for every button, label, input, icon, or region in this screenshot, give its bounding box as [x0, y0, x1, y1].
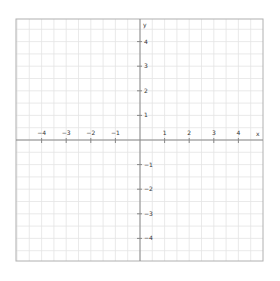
x-axis-label: x: [256, 130, 260, 137]
y-tick-label: −1: [144, 161, 153, 168]
x-tick-label: −1: [111, 129, 120, 136]
y-tick-label: −3: [144, 210, 153, 217]
y-tick-label: 1: [144, 111, 148, 118]
x-tick-label: −3: [62, 129, 71, 136]
coordinate-plane: −4−3−2−11234 4321−1−2−3−4 x y: [0, 0, 280, 281]
y-tick-label: 4: [144, 38, 148, 45]
y-tick-label: 2: [144, 87, 148, 94]
y-tick-label: −4: [144, 234, 153, 241]
y-tick-label: −2: [144, 185, 153, 192]
x-axis-ticks: −4−3−2−11234: [37, 129, 240, 143]
x-tick-label: −4: [37, 129, 46, 136]
x-tick-label: 3: [212, 129, 216, 136]
x-tick-label: 1: [163, 129, 167, 136]
x-tick-label: 4: [236, 129, 240, 136]
x-tick-label: 2: [187, 129, 191, 136]
y-axis-label: y: [143, 21, 147, 29]
x-tick-label: −2: [86, 129, 95, 136]
y-tick-label: 3: [144, 62, 148, 69]
